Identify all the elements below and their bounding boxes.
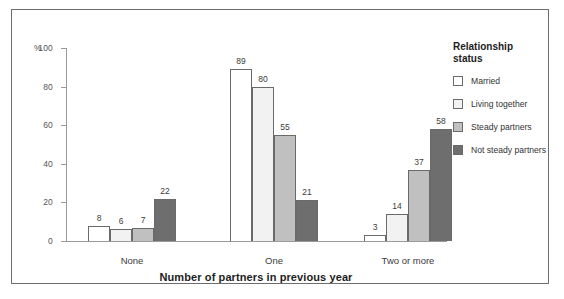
legend-item[interactable]: Steady partners <box>453 121 564 132</box>
bar-value-label: 80 <box>252 74 274 84</box>
bar[interactable] <box>132 228 154 242</box>
y-axis-tick-label: 80 <box>43 82 53 92</box>
legend-item-label: Not steady partners <box>471 145 546 155</box>
bar-item[interactable]: 37 <box>408 170 430 241</box>
bar-value-label: 14 <box>386 201 408 211</box>
x-tick-label: None <box>121 255 144 266</box>
bar-item[interactable]: 80 <box>252 87 274 241</box>
chart-figure: 100806040200 % 86722898055213143758 None… <box>0 0 564 299</box>
bar[interactable] <box>274 135 296 241</box>
bar-item[interactable]: 21 <box>296 200 318 241</box>
legend-item[interactable]: Living together <box>453 98 564 109</box>
bar-item[interactable]: 6 <box>110 229 132 241</box>
bar-value-label: 7 <box>132 215 154 225</box>
bar-value-label: 6 <box>110 216 132 226</box>
x-axis-title: Number of partners in previous year <box>160 271 353 283</box>
x-tick-label: Two or more <box>382 255 435 266</box>
y-axis-tick-label: 40 <box>43 159 53 169</box>
bar[interactable] <box>230 69 252 241</box>
legend-swatch-icon <box>453 145 463 155</box>
bar[interactable] <box>110 229 132 241</box>
bar-item[interactable]: 22 <box>154 199 176 241</box>
legend-item-label: Married <box>471 76 500 86</box>
y-axis-tick-label: 60 <box>43 120 53 130</box>
legend-swatch-icon <box>453 122 463 132</box>
plot-area: 86722898055213143758 <box>66 48 446 241</box>
figure-frame: 100806040200 % 86722898055213143758 None… <box>11 9 549 284</box>
legend-item-label: Steady partners <box>471 122 532 132</box>
bar[interactable] <box>296 200 318 241</box>
bar-value-label: 3 <box>364 222 386 232</box>
y-axis-tick-label: 20 <box>43 197 53 207</box>
bar-item[interactable]: 14 <box>386 214 408 241</box>
y-axis-tick-label: 0 <box>48 236 53 246</box>
bar[interactable] <box>364 235 386 241</box>
bar-value-label: 21 <box>296 187 318 197</box>
bar-value-label: 8 <box>88 213 110 223</box>
bar[interactable] <box>252 87 274 241</box>
bar-item[interactable]: 7 <box>132 228 154 242</box>
bar-value-label: 37 <box>408 157 430 167</box>
bar[interactable] <box>88 226 110 241</box>
legend-item[interactable]: Not steady partners <box>453 144 564 155</box>
bar-group: 89805521 <box>230 69 318 241</box>
bar-group: 86722 <box>88 199 176 241</box>
bar-item[interactable]: 89 <box>230 69 252 241</box>
bar-value-label: 58 <box>430 116 452 126</box>
bar-value-label: 89 <box>230 56 252 66</box>
x-axis <box>66 241 447 242</box>
bar-item[interactable]: 8 <box>88 226 110 241</box>
bar-value-label: 55 <box>274 122 296 132</box>
legend-swatch-icon <box>453 76 463 86</box>
bar[interactable] <box>430 129 452 241</box>
bar[interactable] <box>154 199 176 241</box>
bar[interactable] <box>408 170 430 241</box>
legend-item[interactable]: Married <box>453 75 564 86</box>
bar-item[interactable]: 3 <box>364 235 386 241</box>
legend-title: Relationship status <box>453 41 564 65</box>
bar-item[interactable]: 58 <box>430 129 452 241</box>
x-tick-label: One <box>265 255 283 266</box>
bar-group: 3143758 <box>364 129 452 241</box>
bar[interactable] <box>386 214 408 241</box>
legend: Relationship status MarriedLiving togeth… <box>453 41 564 167</box>
legend-swatch-icon <box>453 99 463 109</box>
bar-item[interactable]: 55 <box>274 135 296 241</box>
bar-value-label: 22 <box>154 186 176 196</box>
legend-item-label: Living together <box>471 99 527 109</box>
y-axis-unit-label: % <box>34 43 42 53</box>
